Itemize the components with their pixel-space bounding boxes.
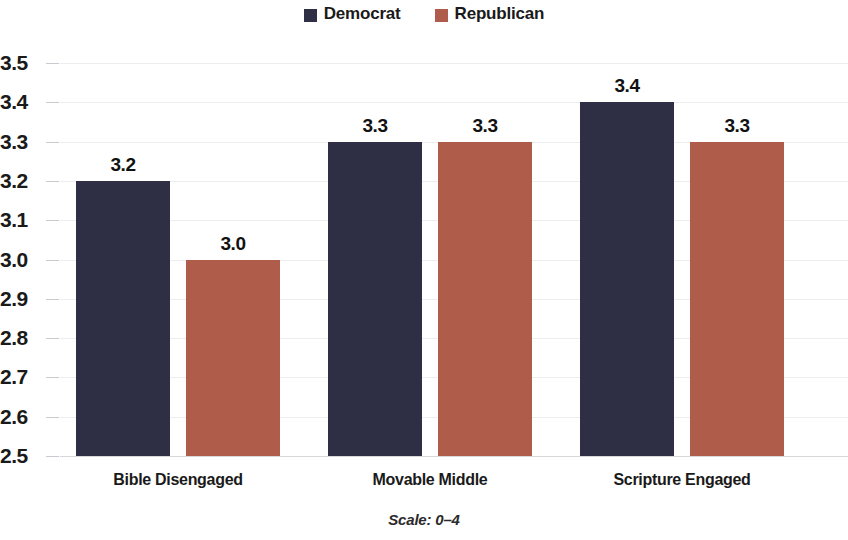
bar-democrat-2 xyxy=(580,102,674,456)
y-axis-tick xyxy=(46,417,59,418)
chart-legend: Democrat Republican xyxy=(0,4,848,24)
y-axis-tick-label: 2.6 xyxy=(0,405,48,429)
bar-value-label: 3.2 xyxy=(110,154,135,176)
legend-swatch-republican-icon xyxy=(435,9,448,22)
y-axis-tick xyxy=(46,260,59,261)
bar-republican-2 xyxy=(690,142,784,456)
y-axis-tick xyxy=(46,63,59,64)
y-axis-tick-label: 3.3 xyxy=(0,130,48,154)
y-axis-tick-label: 3.5 xyxy=(0,51,48,75)
bar-value-label: 3.4 xyxy=(614,75,639,97)
bar-democrat-0 xyxy=(76,181,170,456)
y-axis-tick xyxy=(46,456,59,457)
y-axis-tick xyxy=(46,102,59,103)
legend-item-democrat: Democrat xyxy=(304,4,401,24)
bar-value-label: 3.3 xyxy=(472,115,497,137)
y-axis-tick xyxy=(46,377,59,378)
y-axis-tick xyxy=(46,299,59,300)
bar-value-label: 3.3 xyxy=(362,115,387,137)
gridline xyxy=(60,102,848,103)
y-axis-tick xyxy=(46,142,59,143)
axis-baseline xyxy=(60,456,848,457)
y-axis-tick-label: 3.0 xyxy=(0,248,48,272)
grouped-bar-chart: Democrat Republican 3.53.43.33.23.13.02.… xyxy=(0,0,848,540)
y-axis-tick-label: 2.8 xyxy=(0,326,48,350)
y-axis-tick-label: 2.7 xyxy=(0,365,48,389)
legend-label-republican: Republican xyxy=(455,4,545,24)
y-axis-tick xyxy=(46,181,59,182)
y-axis-tick-label: 2.5 xyxy=(0,444,48,468)
legend-swatch-democrat-icon xyxy=(304,9,317,22)
y-axis-tick-label: 3.2 xyxy=(0,169,48,193)
plot-area: 3.23.03.33.33.43.3 xyxy=(60,63,848,456)
legend-item-republican: Republican xyxy=(435,4,545,24)
bar-value-label: 3.0 xyxy=(220,233,245,255)
gridline xyxy=(60,63,848,64)
chart-footnote: Scale: 0–4 xyxy=(0,511,848,528)
bar-republican-1 xyxy=(438,142,532,456)
bar-democrat-1 xyxy=(328,142,422,456)
bar-republican-0 xyxy=(186,260,280,457)
y-axis-tick-label: 3.4 xyxy=(0,90,48,114)
y-axis-tick-label: 3.1 xyxy=(0,208,48,232)
x-axis-label-1: Movable Middle xyxy=(373,471,488,489)
x-axis-label-2: Scripture Engaged xyxy=(613,471,750,489)
y-axis-tick-label: 2.9 xyxy=(0,287,48,311)
bar-value-label: 3.3 xyxy=(724,115,749,137)
legend-label-democrat: Democrat xyxy=(324,4,401,24)
x-axis-label-0: Bible Disengaged xyxy=(113,471,242,489)
y-axis-tick xyxy=(46,338,59,339)
y-axis-tick xyxy=(46,220,59,221)
